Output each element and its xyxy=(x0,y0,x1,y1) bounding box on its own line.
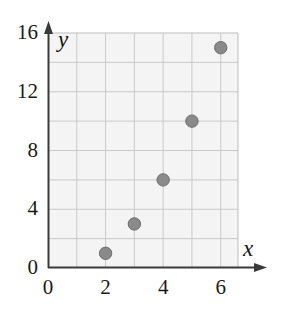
data-point xyxy=(128,218,140,230)
y-tick-label: 4 xyxy=(4,198,38,219)
data-point xyxy=(99,247,111,259)
x-tick-label: 4 xyxy=(150,277,176,298)
x-axis-arrowhead xyxy=(254,263,267,272)
scatter-plot-figure: 0481216 0246 y x xyxy=(0,0,287,309)
y-tick-label: 12 xyxy=(4,81,38,102)
y-axis-label: y xyxy=(58,28,68,51)
data-point xyxy=(157,174,169,186)
y-tick-label: 0 xyxy=(4,257,38,278)
data-point xyxy=(215,41,227,53)
x-axis-label: x xyxy=(243,237,253,260)
x-tick-label: 0 xyxy=(35,277,61,298)
x-tick-label: 6 xyxy=(208,277,234,298)
y-tick-label: 8 xyxy=(4,140,38,161)
y-axis-arrowhead xyxy=(44,21,53,34)
x-tick-label: 2 xyxy=(93,277,119,298)
data-point xyxy=(186,115,198,127)
y-tick-label: 16 xyxy=(4,22,38,43)
plot-canvas xyxy=(0,0,287,309)
